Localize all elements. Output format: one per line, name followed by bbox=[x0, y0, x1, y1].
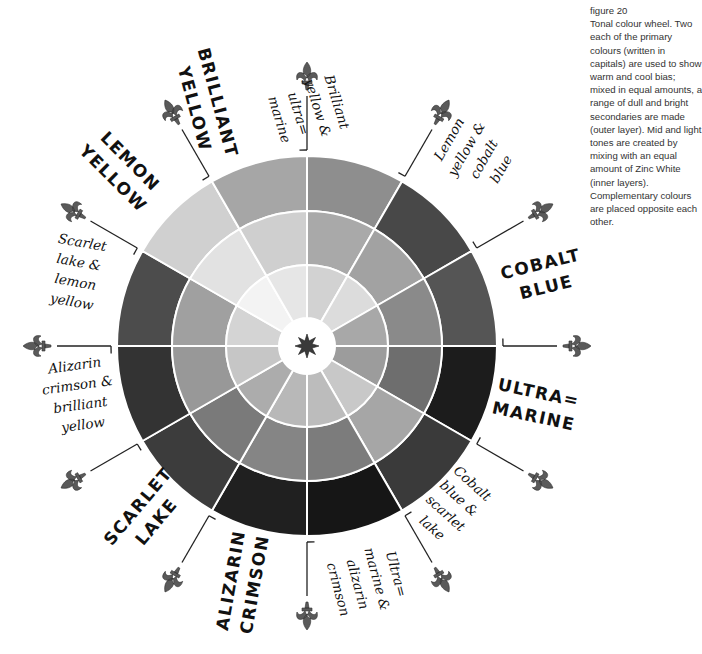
pointer bbox=[503, 336, 591, 357]
pointer bbox=[473, 195, 558, 248]
fleur-de-lis-icon bbox=[156, 563, 188, 598]
caption-text: Tonal colour wheel. Two each of the prim… bbox=[590, 18, 702, 227]
fleur-de-lis-icon bbox=[56, 465, 91, 497]
pointer bbox=[297, 542, 318, 630]
fleur-de-lis-icon bbox=[524, 465, 559, 497]
fleur-de-lis-icon bbox=[297, 602, 318, 630]
fleur-de-lis-icon bbox=[524, 195, 559, 227]
figure-number: figure 20 bbox=[590, 4, 702, 17]
eight-point-star-icon bbox=[295, 334, 319, 358]
fleur-de-lis-icon bbox=[563, 336, 591, 357]
fleur-de-lis-icon bbox=[23, 336, 51, 357]
pointer bbox=[56, 444, 141, 497]
fleur-de-lis-icon bbox=[426, 563, 458, 598]
fleur-de-lis-icon bbox=[56, 195, 91, 227]
label-alizarin-crimson-brilliant-yellow: Alizarin crimson & brilliant yellow bbox=[38, 350, 120, 439]
wheel-hub bbox=[279, 318, 335, 374]
figure-caption: figure 20 Tonal colour wheel. Two each o… bbox=[590, 4, 702, 228]
